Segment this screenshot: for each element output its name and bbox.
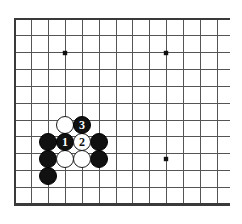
stone-move-number: 3 bbox=[74, 117, 90, 133]
move-2-white[interactable]: 2 bbox=[73, 133, 91, 151]
star-point-top-right bbox=[164, 51, 168, 55]
go-board-figure: 123 bbox=[0, 0, 242, 224]
star-point-bottom-right bbox=[164, 157, 168, 161]
move-3-black[interactable]: 3 bbox=[73, 116, 91, 134]
stone-move-number: 1 bbox=[57, 134, 73, 150]
stone-move-number: 2 bbox=[74, 134, 90, 150]
move-1-black[interactable]: 1 bbox=[56, 133, 74, 151]
star-point-top-left bbox=[63, 51, 67, 55]
goban-grid bbox=[0, 0, 242, 224]
